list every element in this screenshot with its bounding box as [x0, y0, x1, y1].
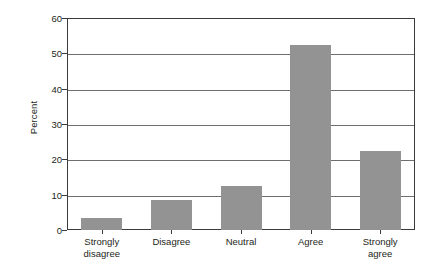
x-axis-label: Disagree: [152, 236, 190, 248]
x-axis-label: Strongly disagree: [84, 236, 120, 260]
x-tick-mark: [241, 230, 242, 234]
x-tick-mark: [102, 230, 103, 234]
y-tick-label-10: 10: [38, 189, 62, 200]
bars-group: [67, 18, 415, 230]
x-tick-mark: [311, 230, 312, 234]
y-tick-label-30: 30: [38, 119, 62, 130]
bar: [290, 45, 331, 231]
y-tick-label-40: 40: [38, 83, 62, 94]
bar: [221, 186, 262, 230]
x-axis-label: Agree: [298, 236, 323, 248]
x-axis-label: Neutral: [226, 236, 257, 248]
bar: [360, 151, 401, 231]
bar: [81, 218, 122, 230]
bar: [151, 200, 192, 230]
x-tick-mark: [171, 230, 172, 234]
x-tick-mark: [380, 230, 381, 234]
y-tick-label-60: 60: [38, 13, 62, 24]
x-axis-label: Strongly agree: [363, 236, 398, 260]
y-axis-title: Percent: [28, 78, 39, 158]
y-tick-mark-0: [62, 230, 67, 231]
y-tick-label-50: 50: [38, 48, 62, 59]
y-tick-label-20: 20: [38, 154, 62, 165]
bar-chart: Percent 0102030405060 Strongly disagreeD…: [0, 0, 439, 279]
y-tick-label-0: 0: [38, 225, 62, 236]
